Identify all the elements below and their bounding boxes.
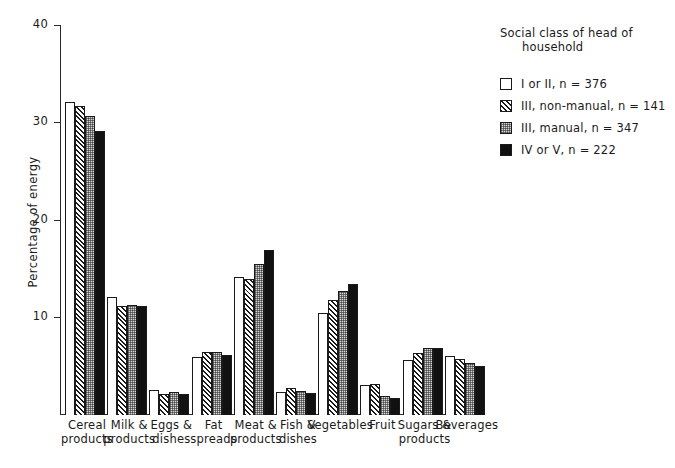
- bar: [107, 297, 117, 415]
- x-axis-group-label: Beverages: [427, 418, 507, 432]
- bar: [318, 313, 328, 415]
- bar-group: Vegetables: [318, 26, 362, 415]
- bar-group-bars: [149, 26, 189, 415]
- bar-group-bars: [403, 26, 443, 415]
- bar-group: Sugars & products: [403, 26, 447, 415]
- y-axis-tick: [54, 220, 61, 221]
- legend-item-label: III, manual, n = 347: [521, 121, 639, 135]
- bar-group-bars: [234, 26, 274, 415]
- bar: [95, 131, 105, 415]
- bar: [328, 300, 338, 415]
- bar: [159, 394, 169, 415]
- legend-item: I or II, n = 376: [500, 77, 675, 91]
- bar: [179, 394, 189, 415]
- bar: [338, 291, 348, 415]
- bar: [455, 359, 465, 415]
- legend-swatch-icon: [500, 122, 512, 134]
- bar: [390, 398, 400, 415]
- bar: [423, 348, 433, 415]
- bar: [149, 390, 159, 415]
- bar: [445, 356, 455, 415]
- bar: [296, 391, 306, 415]
- bar-group: Cereal products: [65, 26, 109, 415]
- bar: [234, 277, 244, 415]
- bar: [264, 250, 274, 415]
- bar-group: Fish & dishes: [276, 26, 320, 415]
- y-axis-tick: [54, 25, 61, 26]
- bar: [254, 264, 264, 415]
- bar: [75, 106, 85, 415]
- bar: [360, 385, 370, 415]
- y-axis-tick-label: 30: [8, 114, 48, 128]
- y-axis-tick-label: 20: [8, 212, 48, 226]
- legend-items: I or II, n = 376III, non-manual, n = 141…: [500, 77, 675, 157]
- legend-item-label: IV or V, n = 222: [521, 143, 616, 157]
- bar: [306, 393, 316, 415]
- bar: [65, 102, 75, 415]
- bar: [403, 360, 413, 415]
- bar: [137, 306, 147, 415]
- legend-title: Social class of head of household: [500, 12, 675, 68]
- bar: [370, 384, 380, 415]
- bar-group-bars: [65, 26, 105, 415]
- bar: [192, 357, 202, 415]
- bar-group: Beverages: [445, 26, 489, 415]
- legend-title-line-1: Social class of head of: [500, 26, 633, 40]
- legend-swatch-icon: [500, 100, 512, 112]
- bar: [222, 355, 232, 415]
- bar: [244, 279, 254, 415]
- bar-group: Fruit: [360, 26, 404, 415]
- bar-chart-figure: Percentage of energy 10203040 Cereal pro…: [0, 0, 675, 468]
- bar: [286, 388, 296, 415]
- bar-group: Eggs & dishes: [149, 26, 193, 415]
- legend-item-label: III, non-manual, n = 141: [521, 99, 666, 113]
- bar: [127, 305, 137, 415]
- y-axis-tick: [54, 317, 61, 318]
- bar: [276, 392, 286, 415]
- bar: [475, 366, 485, 415]
- bar-group-bars: [318, 26, 358, 415]
- bar: [348, 284, 358, 415]
- legend-swatch-icon: [500, 78, 512, 90]
- bar: [433, 348, 443, 415]
- bar: [117, 306, 127, 415]
- bar: [380, 396, 390, 415]
- bar: [202, 352, 212, 415]
- bar-group: Meat & products: [234, 26, 278, 415]
- y-axis-tick-label: 10: [8, 309, 48, 323]
- y-axis-tick-label: 40: [8, 17, 48, 31]
- legend-item: III, non-manual, n = 141: [500, 99, 675, 113]
- bar-group-bars: [192, 26, 232, 415]
- legend-item: III, manual, n = 347: [500, 121, 675, 135]
- bar: [169, 392, 179, 415]
- legend-swatch-icon: [500, 144, 512, 156]
- legend-title-line-2: household: [500, 40, 675, 54]
- bar: [465, 363, 475, 416]
- bar-group-bars: [107, 26, 147, 415]
- bar-group: Fat spreads: [192, 26, 236, 415]
- bar: [413, 353, 423, 415]
- legend: Social class of head of household I or I…: [500, 12, 675, 165]
- legend-item: IV or V, n = 222: [500, 143, 675, 157]
- bar-group-bars: [276, 26, 316, 415]
- plot-area: Cereal productsMilk & productsEggs & dis…: [61, 26, 481, 415]
- bar-group-bars: [445, 26, 485, 415]
- legend-item-label: I or II, n = 376: [521, 77, 607, 91]
- bar: [212, 352, 222, 415]
- bar-group: Milk & products: [107, 26, 151, 415]
- bar: [85, 116, 95, 415]
- y-axis-tick: [54, 122, 61, 123]
- bar-group-bars: [360, 26, 400, 415]
